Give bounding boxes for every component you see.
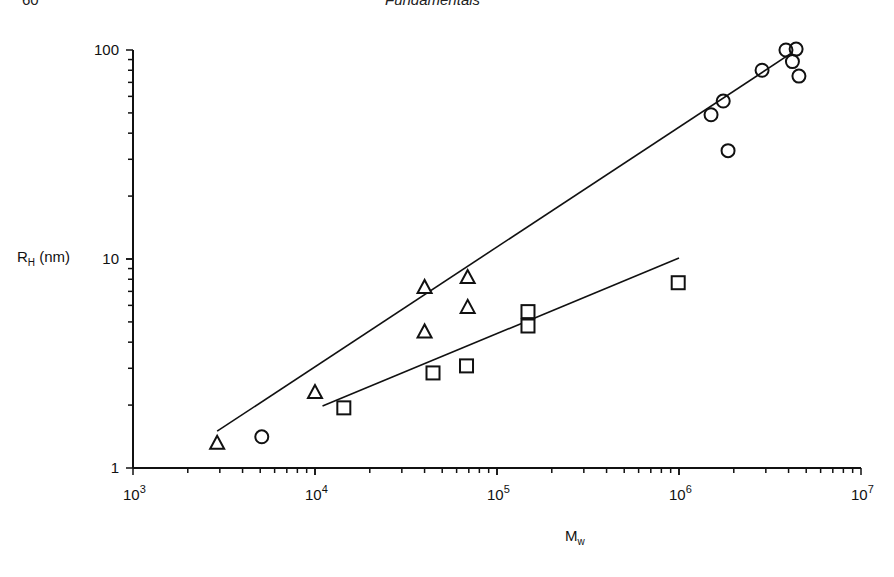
triangle-marker xyxy=(461,300,475,313)
x-tick-label: 106 xyxy=(669,483,692,503)
lower-fit-line xyxy=(323,258,679,406)
x-tick-label: 103 xyxy=(123,483,146,503)
triangle-marker xyxy=(418,280,432,293)
fit-lines xyxy=(217,54,790,431)
log-log-scatter-chart: 110100103104105106107 xyxy=(0,0,894,577)
triangle-marker xyxy=(461,270,475,283)
square-marker xyxy=(672,276,685,289)
square-marker xyxy=(337,401,350,414)
triangle-marker xyxy=(210,436,224,449)
circle-marker xyxy=(255,430,268,443)
circle-marker xyxy=(705,108,718,121)
axes xyxy=(126,50,861,475)
circle-marker xyxy=(722,144,735,157)
square-marker xyxy=(460,359,473,372)
triangle-marker xyxy=(308,385,322,398)
square-marker xyxy=(427,366,440,379)
circle-marker xyxy=(786,55,799,68)
triangle-marker xyxy=(418,324,432,337)
upper-fit-line xyxy=(217,54,790,431)
square-marker xyxy=(521,319,534,332)
x-tick-label: 105 xyxy=(487,483,510,503)
x-tick-label: 107 xyxy=(851,483,874,503)
y-tick-label: 10 xyxy=(102,250,119,267)
circle-marker xyxy=(792,70,805,83)
tick-labels: 110100103104105106107 xyxy=(94,41,874,503)
square-marker xyxy=(521,305,534,318)
y-tick-label: 100 xyxy=(94,41,119,58)
y-tick-label: 1 xyxy=(111,459,119,476)
x-tick-label: 104 xyxy=(305,483,328,503)
